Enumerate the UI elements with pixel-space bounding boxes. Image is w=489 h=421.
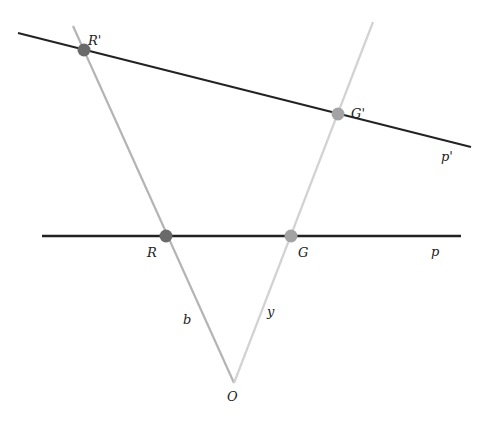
point-r bbox=[160, 230, 173, 243]
label-p-prime: p' bbox=[441, 149, 453, 164]
ray-b bbox=[73, 26, 234, 383]
label-p: p bbox=[431, 244, 440, 259]
ray-y bbox=[234, 22, 373, 383]
label-g: G bbox=[298, 245, 308, 260]
diagram-canvas: R' G' p' R G p b y O bbox=[0, 0, 489, 421]
label-r: R bbox=[146, 245, 157, 260]
label-b: b bbox=[183, 312, 191, 327]
geometry-diagram: R' G' p' R G p b y O bbox=[0, 0, 489, 421]
label-g-prime: G' bbox=[351, 106, 365, 121]
label-y: y bbox=[266, 304, 275, 319]
label-r-prime: R' bbox=[87, 33, 101, 48]
point-g-prime bbox=[332, 108, 345, 121]
label-o: O bbox=[227, 389, 238, 404]
point-g bbox=[285, 230, 298, 243]
